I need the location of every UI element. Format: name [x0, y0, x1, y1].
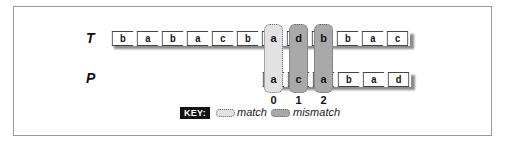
text-cell-compared: a: [264, 31, 283, 46]
text-cell: a: [137, 31, 158, 46]
pattern-row-label: P: [86, 70, 95, 86]
text-cell: b: [112, 31, 133, 46]
key-badge: KEY:: [180, 107, 210, 119]
text-cell: a: [187, 31, 208, 46]
text-cell: c: [387, 31, 408, 46]
comparison-index: 1: [289, 94, 308, 106]
text-cell: b: [337, 31, 358, 46]
pattern-cell-compared: c: [289, 72, 308, 87]
text-cell: b: [237, 31, 258, 46]
match-legend-label: match: [237, 106, 267, 118]
text-cell: a: [362, 31, 383, 46]
pattern-cell: a: [363, 72, 384, 87]
match-swatch-icon: [216, 109, 235, 117]
pattern-cell-compared: a: [314, 72, 333, 87]
text-cell: c: [212, 31, 233, 46]
mismatch-swatch-icon: [271, 109, 290, 117]
text-cell-compared: d: [289, 31, 308, 46]
pattern-cell: b: [338, 72, 359, 87]
comparison-index: 0: [264, 94, 283, 106]
text-cell: b: [162, 31, 183, 46]
text-strip: b a b a c b a d b b a c: [110, 31, 410, 46]
mismatch-legend-label: mismatch: [293, 106, 340, 118]
pattern-cell: d: [388, 72, 409, 87]
pattern-strip: a c a b a d: [261, 72, 411, 87]
comparison-index: 2: [314, 94, 333, 106]
pattern-cell-compared: a: [264, 72, 283, 87]
text-cell-compared: b: [314, 31, 333, 46]
text-row-label: T: [86, 30, 95, 46]
